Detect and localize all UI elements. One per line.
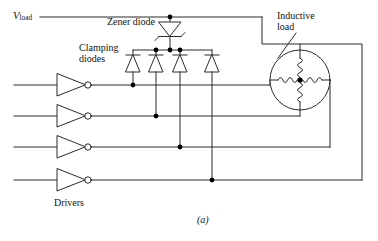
junction-dot <box>154 114 159 119</box>
figure-caption: (a) <box>197 215 209 226</box>
supply-label: Vload <box>13 10 32 23</box>
junction-dot <box>154 48 159 53</box>
junction-dot <box>168 48 173 53</box>
clamping-diodes-label-line2: diodes <box>79 53 105 64</box>
driver-3-bubble <box>85 144 91 150</box>
clamping-diode-1-triangle <box>126 55 140 72</box>
driver-1-bubble <box>85 82 91 88</box>
inductive-load-label: Inductiveload <box>277 11 315 33</box>
junction-dot <box>210 178 215 183</box>
junction-dot <box>131 83 136 88</box>
zener-bar-left-tick <box>155 37 159 41</box>
clamping-diode-4-triangle <box>205 55 219 72</box>
drivers-label: Drivers <box>54 198 84 209</box>
junction-dot <box>178 145 183 150</box>
driver-4-triangle <box>57 169 85 191</box>
driver-4-bubble <box>85 177 91 183</box>
driver-2-triangle <box>57 105 85 127</box>
zener-diode-triangle <box>159 22 181 36</box>
supply-subscript: load <box>19 14 32 22</box>
inductive-load-label-line1: Inductive <box>277 10 315 21</box>
junction-dot <box>168 15 173 20</box>
clamping-diode-2-triangle <box>149 55 163 72</box>
driver-3-triangle <box>57 136 85 158</box>
junction-dot <box>178 48 183 53</box>
clamping-diode-3-triangle <box>173 55 187 72</box>
driver-1-triangle <box>57 74 85 96</box>
driver-2-bubble <box>85 113 91 119</box>
inductive-load-label-line2: load <box>277 21 294 32</box>
zener-bar-right-tick <box>181 33 185 37</box>
figure-canvas: Vload Zener diode Clampingdiodes Inducti… <box>0 0 378 241</box>
clamping-diodes-label: Clampingdiodes <box>79 43 118 65</box>
zener-diode-label: Zener diode <box>107 17 155 28</box>
clamping-diodes-label-line1: Clamping <box>79 42 118 53</box>
junction-dot <box>297 77 302 82</box>
